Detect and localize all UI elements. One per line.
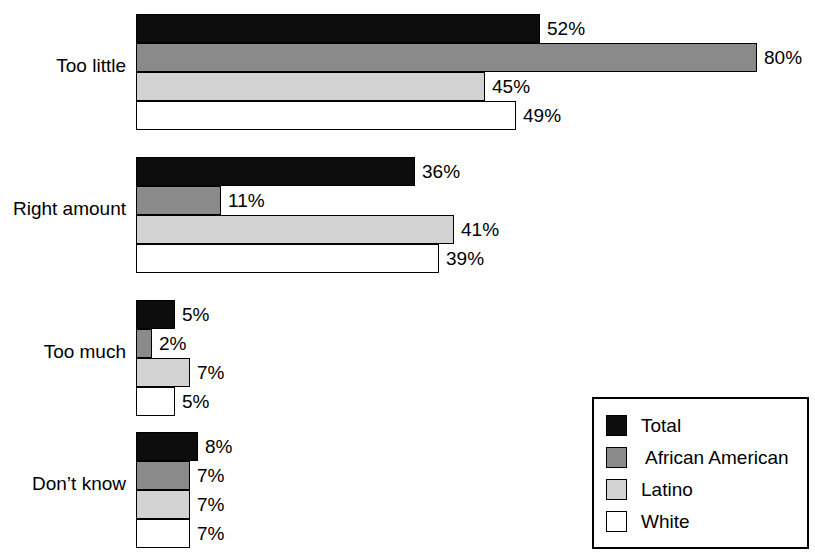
legend-swatch-white [606, 511, 627, 532]
bar-value-label: 41% [454, 215, 499, 244]
bar-latino [136, 358, 190, 387]
legend-swatch-latino [606, 479, 627, 500]
category-label: Too much [0, 341, 136, 363]
legend-swatch-african [606, 447, 627, 468]
bar-value-label: 5% [175, 300, 209, 329]
legend-item: Latino [606, 473, 807, 505]
bar-value-label: 52% [540, 14, 585, 43]
bar-value-label: 39% [439, 244, 484, 273]
bar-value-label: 80% [757, 43, 802, 72]
bar-african [136, 329, 152, 358]
bar-value-label: 7% [190, 461, 224, 490]
bar-white [136, 387, 175, 416]
bar-value-label: 8% [198, 432, 232, 461]
category-label: Don’t know [0, 473, 136, 495]
legend-item: Total [606, 409, 807, 441]
bar-value-label: 45% [485, 72, 530, 101]
bar-total [136, 14, 540, 43]
bar-white [136, 101, 516, 130]
bar-value-label: 11% [221, 186, 265, 215]
bar-latino [136, 215, 454, 244]
legend-label: White [641, 511, 690, 532]
legend-label: African American [645, 447, 789, 468]
chart-legend: TotalAfrican AmericanLatinoWhite [592, 397, 809, 549]
category-label: Right amount [0, 198, 136, 220]
legend-label: Latino [641, 479, 693, 500]
bar-value-label: 5% [175, 387, 209, 416]
bar-african [136, 43, 757, 72]
bar-value-label: 7% [190, 490, 224, 519]
bar-latino [136, 72, 485, 101]
legend-swatch-total [606, 415, 627, 436]
bar-white [136, 244, 439, 273]
bar-value-label: 2% [152, 329, 186, 358]
legend-item: African American [606, 441, 807, 473]
bar-value-label: 7% [190, 519, 224, 548]
bar-latino [136, 490, 190, 519]
bar-white [136, 519, 190, 548]
bar-total [136, 300, 175, 329]
bar-african [136, 461, 190, 490]
legend-label: Total [641, 415, 681, 436]
bar-value-label: 36% [415, 157, 460, 186]
bar-value-label: 49% [516, 101, 561, 130]
category-label: Too little [0, 55, 136, 77]
bar-total [136, 157, 415, 186]
chart-title [136, 0, 756, 2]
legend-item: White [606, 505, 807, 537]
bar-total [136, 432, 198, 461]
bar-value-label: 7% [190, 358, 224, 387]
bar-african [136, 186, 221, 215]
bar-chart: Too little52%80%45%49%Right amount36%11%… [0, 0, 815, 556]
